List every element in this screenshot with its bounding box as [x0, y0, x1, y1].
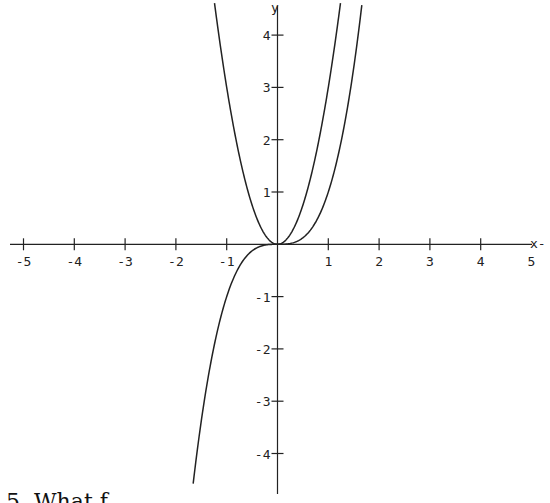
- y-tick-label: 4: [263, 28, 271, 43]
- y-tick-label: 2: [263, 133, 271, 148]
- y-tick-label: -2: [255, 342, 271, 357]
- x-tick-label: -1: [219, 254, 235, 269]
- y-tick-label: -4: [255, 447, 271, 462]
- axes: [10, 6, 532, 494]
- y-tick-label: -3: [255, 394, 271, 409]
- y-tick-label: -1: [255, 290, 271, 305]
- question-caption: 5. What f...: [6, 489, 128, 503]
- function-graph: -5-4-3-2-112345-4-3-2-11234 x- y: [0, 0, 550, 503]
- x-tick-label: -2: [168, 254, 184, 269]
- x-tick-label: 2: [375, 254, 383, 269]
- x-tick-label: 3: [426, 254, 434, 269]
- x-tick-label: -5: [16, 254, 32, 269]
- x-tick-label: 5: [528, 254, 536, 269]
- y-tick-label: 3: [263, 80, 271, 95]
- y-axis-label: y: [271, 0, 279, 15]
- x-axis-label: x-: [530, 236, 546, 251]
- x-tick-label: -4: [66, 254, 82, 269]
- y-tick-label: 1: [263, 185, 271, 200]
- x-tick-label: -3: [117, 254, 133, 269]
- x-tick-label: 4: [477, 254, 485, 269]
- x-tick-label: 1: [324, 254, 332, 269]
